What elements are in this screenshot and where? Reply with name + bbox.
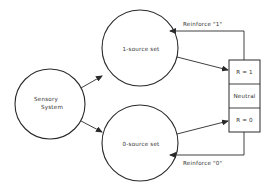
reinforce-one-label: Reinforce "1" xyxy=(183,21,223,27)
sensory-system-label-line1: Sensory xyxy=(34,96,58,103)
box-cell-neutral: Neutral xyxy=(233,93,255,99)
reinforce-zero-label: Reinforce "0" xyxy=(183,160,223,166)
zero-source-set-label: 0-source set xyxy=(123,141,160,147)
one-source-set-node: 1-source set xyxy=(102,10,178,86)
arrow-zero-source-to-r0 xyxy=(177,121,228,134)
arrow-sensory-to-zero-source xyxy=(81,121,102,132)
feedback-line-bottom xyxy=(170,132,244,155)
feedback-reinforce-one: Reinforce "1" xyxy=(170,21,244,60)
sensory-system-node: Sensory System xyxy=(15,69,85,139)
box-cell-r0: R = 0 xyxy=(236,117,253,123)
arrow-one-source-to-r1 xyxy=(177,57,228,70)
arrow-sensory-to-one-source xyxy=(81,76,102,88)
sensory-system-label-line2: System xyxy=(41,104,63,111)
reinforcement-box: R = 1 Neutral R = 0 xyxy=(229,60,260,132)
feedback-reinforce-zero: Reinforce "0" xyxy=(170,132,244,166)
reinforcement-diagram: Sensory System 1-source set 0-source set… xyxy=(0,0,277,189)
box-cell-r1: R = 1 xyxy=(236,69,253,75)
zero-source-set-node: 0-source set xyxy=(102,105,178,181)
one-source-set-label: 1-source set xyxy=(123,46,160,52)
feedback-line-top xyxy=(170,31,244,60)
